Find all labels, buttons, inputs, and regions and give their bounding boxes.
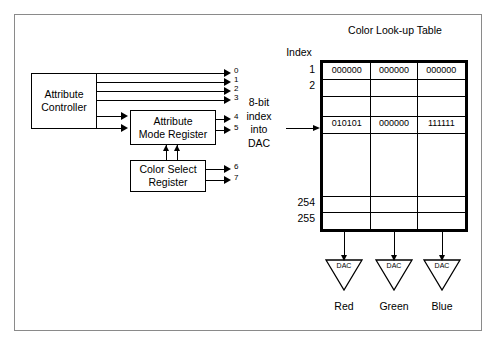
index-label-2: 2	[279, 79, 315, 91]
bus-caption-line2: index	[238, 110, 280, 124]
lut-data-row	[323, 96, 465, 116]
bit-label-1: 1	[234, 75, 238, 84]
bus-caption-line4: DAC	[238, 137, 280, 151]
bus-caption-line1: 8-bit	[238, 96, 280, 110]
lut-cell-green	[370, 96, 417, 116]
lut-table: 000000 000000 000000 010101 000000 11111…	[320, 60, 468, 232]
lut-to-dac-line-green	[394, 232, 395, 256]
bus-line-3	[97, 100, 225, 101]
attribute-mode-register-line2: Mode Register	[139, 128, 207, 141]
lut-data-row	[323, 133, 465, 196]
block-attribute-controller: Attribute Controller	[31, 73, 97, 129]
bus-arrow-6	[224, 165, 231, 173]
diagram-canvas: Attribute Controller Attribute Mode Regi…	[0, 0, 498, 350]
lut-data-row: 000000 000000 000000	[323, 63, 465, 79]
lut-cell-red	[323, 79, 370, 96]
amr-input-line-2	[97, 128, 122, 129]
lut-cell-blue	[418, 196, 465, 212]
amr-input-arrow-1	[121, 112, 128, 120]
bus-arrow-5	[224, 126, 231, 134]
bus-arrow-0	[224, 69, 231, 77]
bus-line-1	[97, 82, 225, 83]
bus-arrow-4	[224, 115, 231, 123]
bus-caption: 8-bit index into DAC	[238, 96, 280, 150]
lut-cell-blue	[418, 212, 465, 229]
block-attribute-mode-register: Attribute Mode Register	[130, 110, 216, 145]
amr-input-line-1	[97, 116, 122, 117]
lut-cell-green	[370, 212, 417, 229]
color-select-register-line1: Color Select	[139, 163, 196, 176]
channel-label-red: Red	[319, 300, 369, 312]
lut-input-arrow	[313, 125, 320, 131]
channel-label-blue: Blue	[417, 300, 467, 312]
bit-label-0: 0	[234, 66, 238, 75]
dac-label-green: DAC	[375, 262, 413, 270]
lut-title: Color Look-up Table	[320, 24, 470, 36]
lut-data-row-selected: 010101 000000 111111	[323, 116, 465, 133]
bus-line-7	[206, 180, 225, 181]
index-label-255: 255	[279, 212, 315, 224]
lut-cell-blue: 111111	[418, 116, 465, 133]
color-select-register-line2: Register	[148, 176, 187, 189]
lut-cell-red: 000000	[323, 63, 370, 79]
lut-cell-blue	[418, 96, 465, 116]
lut-data-row	[323, 212, 465, 229]
attribute-controller-line1: Attribute	[44, 88, 83, 101]
lut-cell-red	[323, 196, 370, 212]
amr-input-arrow-2	[121, 124, 128, 132]
bit-label-7: 7	[234, 173, 238, 182]
lut-cell-red	[323, 133, 370, 196]
bus-line-6	[206, 169, 225, 170]
block-color-select-register: Color Select Register	[130, 160, 206, 192]
lut-cell-red: 010101	[323, 116, 370, 133]
index-header: Index	[279, 46, 319, 58]
bus-arrow-7	[224, 176, 231, 184]
bus-line-2	[97, 91, 225, 92]
lut-cell-blue	[418, 79, 465, 96]
lut-cell-red	[323, 96, 370, 116]
bus-caption-line3: into	[238, 123, 280, 137]
lut-cell-red	[323, 212, 370, 229]
bus-arrow-2	[224, 87, 231, 95]
attribute-controller-line2: Controller	[41, 101, 87, 114]
bus-line-0	[97, 73, 225, 74]
index-label-254: 254	[279, 196, 315, 208]
lut-cell-green: 000000	[370, 63, 417, 79]
lut-cell-green: 000000	[370, 116, 417, 133]
csr-to-amr-arrow-2	[174, 145, 180, 151]
channel-label-green: Green	[369, 300, 419, 312]
bit-label-6: 6	[234, 162, 238, 171]
bit-label-2: 2	[234, 84, 238, 93]
lut-input-line	[286, 128, 314, 129]
lut-data-row	[323, 79, 465, 96]
csr-to-amr-arrow-1	[163, 145, 169, 151]
bus-arrow-3	[224, 96, 231, 104]
lut-to-dac-line-blue	[442, 232, 443, 256]
attribute-mode-register-line1: Attribute	[153, 115, 192, 128]
lut-cell-blue: 000000	[418, 63, 465, 79]
bus-arrow-1	[224, 78, 231, 86]
dac-label-red: DAC	[325, 262, 363, 270]
lut-to-dac-line-red	[344, 232, 345, 256]
dac-label-blue: DAC	[423, 262, 461, 270]
lut-data-row	[323, 196, 465, 212]
lut-cell-green	[370, 79, 417, 96]
lut-cell-green	[370, 196, 417, 212]
lut-cell-green	[370, 133, 417, 196]
index-label-1: 1	[279, 63, 315, 75]
lut-cell-blue	[418, 133, 465, 196]
